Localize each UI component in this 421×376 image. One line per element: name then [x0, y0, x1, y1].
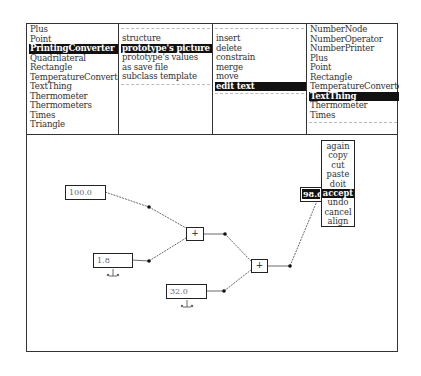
menu-item-align[interactable]: align — [322, 217, 354, 226]
list-top-divider — [121, 28, 210, 30]
celsius-value: 100.0 — [69, 188, 92, 197]
class-item[interactable]: Triangle — [29, 120, 118, 130]
plus-icon: + — [191, 228, 199, 238]
picture-canvas[interactable]: 100.0 1.8 32.0 + — [27, 134, 397, 352]
anchor-icon[interactable] — [106, 269, 120, 279]
list-bottom-divider — [121, 84, 210, 86]
fahrenheit-output-box[interactable]: 98.6 — [300, 187, 322, 202]
class-command-pane[interactable]: structure prototype's picture prototype'… — [119, 24, 213, 134]
scale-value: 1.8 — [97, 256, 110, 265]
fahrenheit-value: 98.6 — [302, 189, 320, 199]
scale-input-box[interactable]: 1.8 — [93, 253, 133, 268]
list-bottom-divider — [215, 93, 304, 95]
anchor-icon[interactable] — [180, 300, 194, 310]
offset-value: 32.0 — [170, 287, 188, 296]
command-item[interactable]: subclass template — [121, 72, 212, 82]
part-class-item[interactable]: Times — [309, 111, 399, 121]
thinglab-window: Plus Point PrintingConverter Quadrilater… — [26, 23, 398, 352]
edit-popup-menu: again copy cut paste doit accept undo ca… — [321, 140, 355, 227]
list-bottom-divider — [309, 122, 397, 124]
class-list-pane[interactable]: Plus Point PrintingConverter Quadrilater… — [27, 24, 119, 134]
picture-command-pane[interactable]: insert delete constrain merge move edit … — [213, 24, 307, 134]
plus-operator-box[interactable]: + — [251, 259, 268, 273]
list-top-divider — [215, 28, 304, 30]
part-class-pane[interactable]: NumberNode NumberOperator NumberPrinter … — [307, 24, 399, 134]
celsius-input-box[interactable]: 100.0 — [65, 185, 106, 200]
plus-operator-box[interactable]: + — [186, 227, 204, 241]
plus-icon: + — [256, 260, 264, 270]
picture-command-item-selected[interactable]: edit text — [215, 82, 306, 92]
offset-input-box[interactable]: 32.0 — [166, 284, 207, 299]
browser-panes: Plus Point PrintingConverter Quadrilater… — [27, 24, 397, 135]
